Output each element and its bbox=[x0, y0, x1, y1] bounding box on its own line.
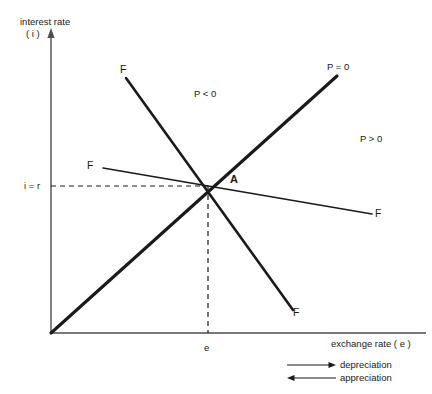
diagram-svg bbox=[0, 0, 432, 394]
region-label-p-greater-than-zero: P > 0 bbox=[360, 133, 382, 145]
curve-label-f-left-flat: F bbox=[87, 159, 93, 172]
region-label-p-less-than-zero: P < 0 bbox=[194, 88, 216, 100]
p-equals-zero-line bbox=[51, 76, 337, 333]
x-tick-label-e: e bbox=[204, 342, 209, 354]
curve-label-f-lower-right: F bbox=[293, 306, 299, 319]
x-axis-title: exchange rate ( e ) bbox=[331, 338, 411, 350]
legend-label-appreciation: appreciation bbox=[340, 372, 392, 384]
equilibrium-point-label-a: A bbox=[230, 173, 238, 187]
y-axis-title-line2: ( i ) bbox=[26, 28, 40, 40]
curve-label-f-upper-left: F bbox=[120, 63, 126, 76]
legend-label-depreciation: depreciation bbox=[340, 359, 392, 371]
depreciation-arrow-icon bbox=[287, 362, 336, 368]
y-axis-title-line1: interest rate bbox=[20, 16, 70, 28]
curve-label-f-right-flat: F bbox=[375, 207, 381, 220]
y-tick-label-i-equals-r: i = r bbox=[24, 180, 40, 192]
f-steep-line bbox=[126, 78, 293, 310]
appreciation-arrow-icon bbox=[287, 375, 336, 381]
y-axis bbox=[47, 28, 54, 333]
diagram-canvas: interest rate ( i ) exchange rate ( e ) … bbox=[0, 0, 432, 394]
curve-label-p-equals-zero: P = 0 bbox=[327, 61, 349, 73]
